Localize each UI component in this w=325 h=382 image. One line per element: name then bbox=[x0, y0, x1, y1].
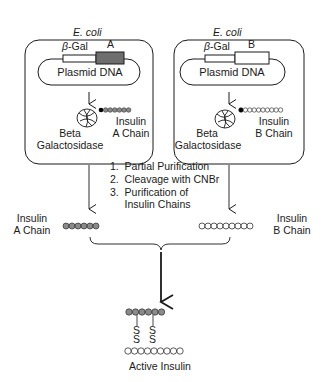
combine-brace bbox=[90, 237, 230, 250]
protein-label-left-line1: Beta bbox=[50, 127, 90, 139]
purified-a-label-line1: Insulin bbox=[12, 212, 52, 224]
purified-b-label-line2: B Chain bbox=[270, 224, 314, 236]
organism-label-right: E. coli bbox=[213, 26, 242, 38]
plasmid-label-left: Plasmid DNA bbox=[54, 66, 126, 78]
active-insulin-label: Active Insulin bbox=[110, 360, 210, 372]
beta-gal-protein-left bbox=[77, 109, 97, 127]
bgal-suffix: -Gal bbox=[210, 40, 230, 52]
protein-label-right-line1: Beta bbox=[187, 127, 227, 139]
purified-b-label-line1: Insulin bbox=[270, 212, 314, 224]
b-gene-insert bbox=[235, 52, 269, 64]
protein-label-left-line2: Galactosidase bbox=[30, 139, 110, 151]
purified-b-chain bbox=[199, 223, 253, 229]
step-3: 3. Purification of bbox=[110, 186, 188, 198]
chain-label-left-line1: Insulin bbox=[110, 115, 152, 127]
organism-label-left: E. coli bbox=[73, 26, 102, 38]
bgal-label-right: β-Gal bbox=[204, 40, 230, 52]
disulfide-2-bottom-s: S bbox=[149, 334, 156, 344]
plasmid-label-right: Plasmid DNA bbox=[196, 66, 268, 78]
fusion-b-chain bbox=[239, 108, 283, 113]
bgal-gene-right bbox=[205, 55, 235, 62]
bgal-label-left: β-Gal bbox=[62, 40, 88, 52]
gene-label-b: B bbox=[248, 38, 255, 50]
beta-gal-protein-right bbox=[215, 110, 235, 128]
chain-label-left-line2: A Chain bbox=[110, 127, 152, 139]
purified-a-chain bbox=[63, 223, 99, 229]
disulfide-1-bottom-s: S bbox=[133, 334, 140, 344]
bgal-suffix: -Gal bbox=[68, 40, 88, 52]
gene-label-a: A bbox=[107, 38, 114, 50]
chain-label-right-line2: B Chain bbox=[252, 127, 296, 139]
step-2: 2. Cleavage with CNBr bbox=[110, 173, 219, 185]
protein-label-right-line2: Galactosidase bbox=[168, 139, 248, 151]
chain-label-right-line1: Insulin bbox=[252, 115, 296, 127]
active-insulin-b-chain bbox=[125, 348, 183, 354]
fusion-a-chain bbox=[99, 108, 131, 113]
step-1: 1. Partial Purification bbox=[110, 160, 209, 172]
purified-a-label-line2: A Chain bbox=[10, 224, 54, 236]
a-gene-insert bbox=[96, 52, 124, 64]
step-3-continued: Insulin Chains bbox=[110, 198, 191, 210]
bgal-gene-left bbox=[63, 55, 96, 62]
active-insulin-a-chain bbox=[126, 309, 165, 315]
